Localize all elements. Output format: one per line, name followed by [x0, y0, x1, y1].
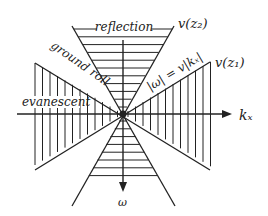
fk-plane-diagram: reflection v(z₂) v(z₁) ground roll |ω| =…: [0, 0, 268, 216]
label-evanescent: evanescent: [22, 95, 91, 109]
label-v-z2: v(z₂): [178, 16, 208, 31]
label-v-z1: v(z₁): [215, 55, 245, 70]
omega-arrow-icon: [119, 182, 127, 192]
origin-point: [120, 111, 127, 118]
label-reflection: reflection: [95, 20, 153, 34]
label-kx: kₓ: [239, 107, 252, 123]
label-omega: ω: [118, 196, 127, 209]
diagram-canvas: reflection v(z₂) v(z₁) ground roll |ω| =…: [0, 0, 268, 216]
kx-arrow-icon: [222, 110, 232, 118]
